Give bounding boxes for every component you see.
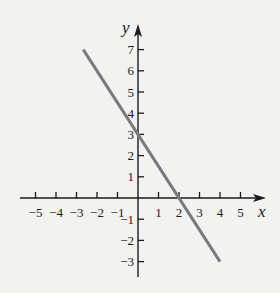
x-tick-label: −5 [29, 205, 43, 220]
y-tick-label: −3 [120, 254, 134, 269]
x-tick-label: −4 [49, 205, 63, 220]
y-tick-label: 2 [128, 148, 135, 163]
data-line [83, 50, 220, 262]
y-tick-label: −1 [120, 212, 134, 227]
x-tick-label: 1 [155, 205, 162, 220]
x-tick-label: 5 [237, 205, 244, 220]
y-tick-label: 5 [128, 85, 135, 100]
y-tick-label: −2 [120, 233, 134, 248]
x-tick-label: 3 [196, 205, 203, 220]
y-tick-label: 7 [128, 42, 135, 57]
data-series [83, 50, 220, 262]
y-tick-label: 6 [128, 63, 135, 78]
x-tick-label: −2 [90, 205, 104, 220]
y-tick-label: 1 [128, 169, 135, 184]
x-tick-label: 4 [217, 205, 224, 220]
line-graph: −5−4−3−2−112345 7654321−1−2−3 x y [0, 0, 280, 293]
y-axis-ticks: 7654321−1−2−3 [120, 42, 144, 269]
y-axis-label: y [120, 18, 130, 37]
x-axis-label: x [257, 202, 266, 221]
axes [20, 24, 266, 277]
x-tick-label: 2 [176, 205, 183, 220]
x-axis-ticks: −5−4−3−2−112345 [29, 192, 244, 220]
x-tick-label: −3 [70, 205, 84, 220]
